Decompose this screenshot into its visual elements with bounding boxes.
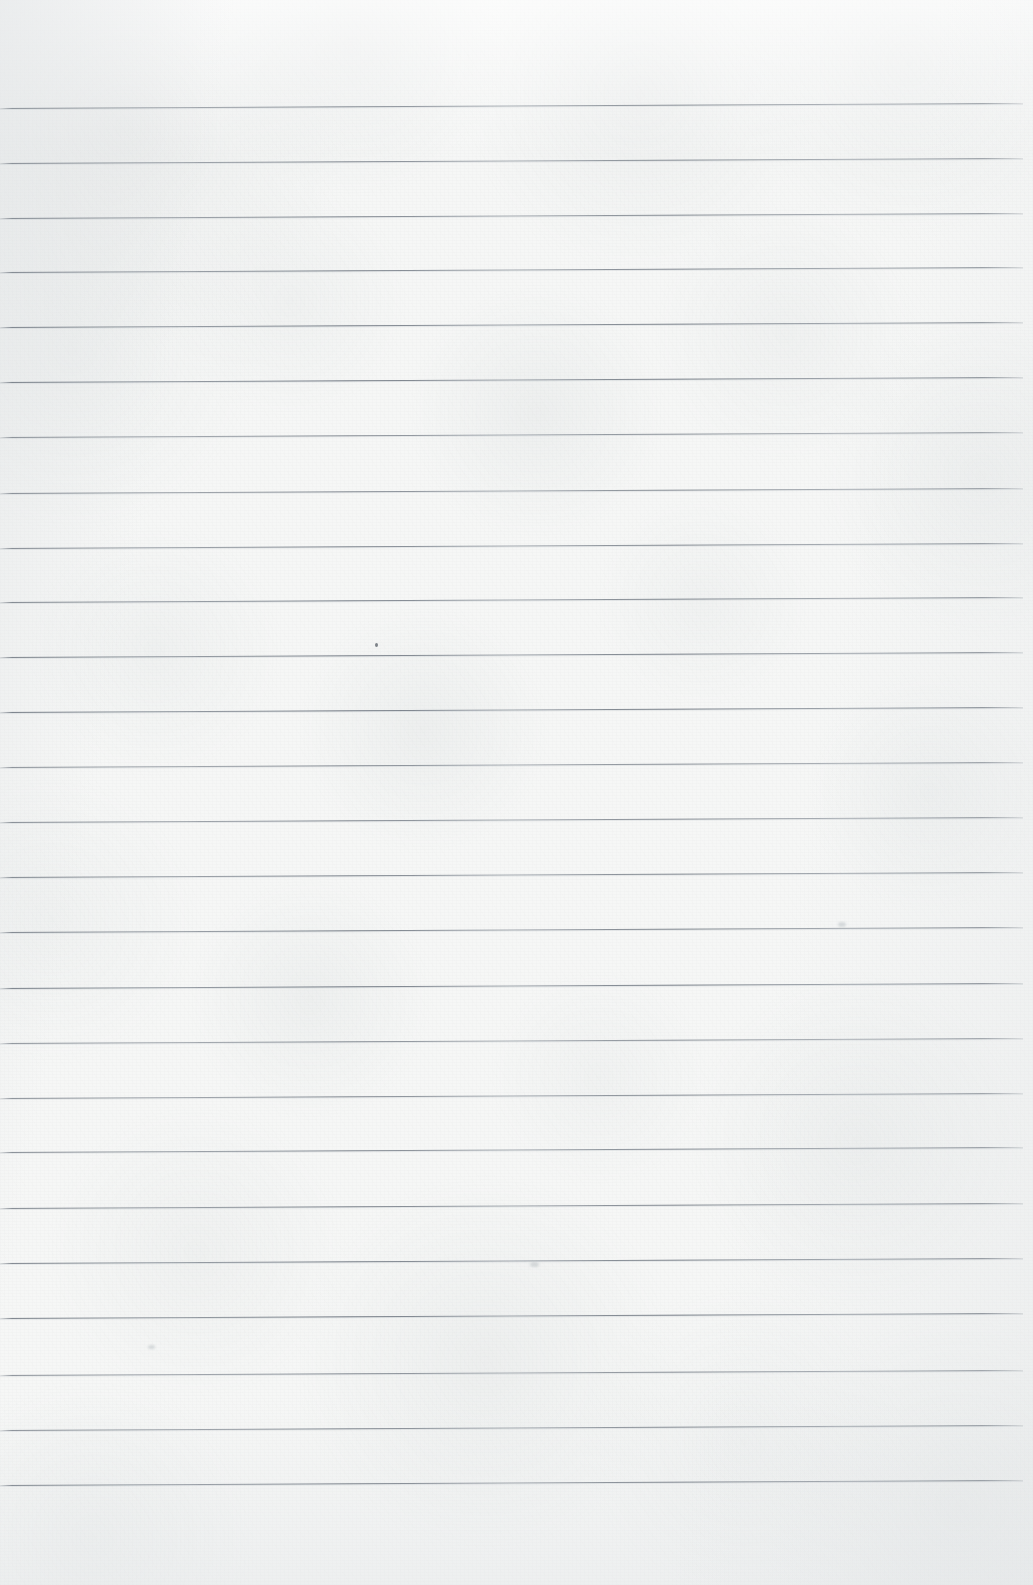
pen-speck	[375, 643, 378, 647]
paper-smudge	[838, 922, 846, 927]
paper-smudge	[148, 1345, 155, 1349]
scanned-page	[0, 0, 1033, 1585]
paper-smudge	[530, 1262, 539, 1267]
